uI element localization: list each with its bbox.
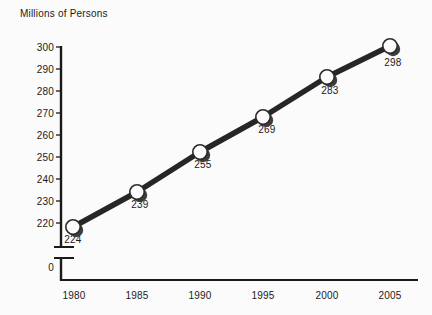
data-line [73,46,390,227]
data-marker[interactable] [383,39,400,56]
plot-area [0,0,432,315]
line-chart: Millions of Persons 300 290 280 270 260 … [0,0,432,315]
